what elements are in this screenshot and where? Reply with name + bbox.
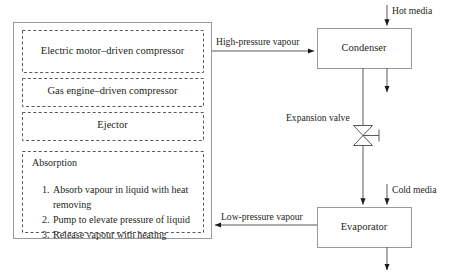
diagram-canvas: Electric motor–driven compressor Gas eng…	[0, 0, 452, 279]
expansion-valve-label: Expansion valve	[286, 112, 350, 123]
absorption-step-3-number: 3.	[42, 229, 53, 241]
expansion-valve-icon	[354, 126, 380, 146]
evaporator-label: Evaporator	[317, 221, 411, 233]
cold-media-label: Cold media	[392, 184, 437, 195]
low-pressure-vapour-label: Low-pressure vapour	[221, 211, 303, 222]
option-label-gas-engine: Gas engine–driven compressor	[22, 85, 203, 97]
absorption-step-3: 3.Release vapour with heating	[32, 217, 167, 252]
high-pressure-vapour-label: High-pressure vapour	[216, 36, 299, 47]
absorption-title: Absorption	[32, 157, 77, 169]
option-label-ejector: Ejector	[22, 119, 203, 131]
option-label-electric-motor: Electric motor–driven compressor	[22, 45, 203, 57]
condenser-label: Condenser	[317, 42, 411, 54]
hot-media-label: Hot media	[392, 5, 432, 16]
absorption-step-3-text: Release vapour with heating	[53, 229, 167, 240]
